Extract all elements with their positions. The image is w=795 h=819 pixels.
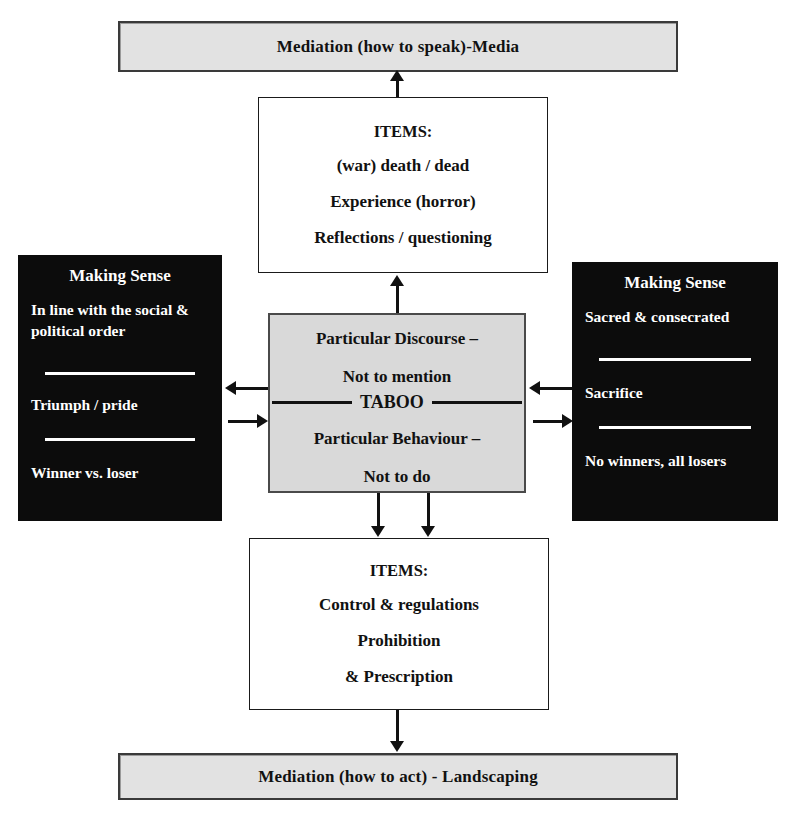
center-upper-line-1: Particular Discourse – <box>270 329 524 349</box>
bottom-items-line-2: Prohibition <box>358 631 441 651</box>
connector-center-to-bottomitems-a <box>377 493 380 528</box>
arrowhead-left-upper-right <box>529 381 540 395</box>
arrowhead-right-lower <box>562 414 573 428</box>
arrowhead-left-upper <box>225 381 236 395</box>
connector-topitems-to-topbanner <box>396 80 399 98</box>
connector-center-to-topitems <box>396 285 399 313</box>
bottom-items-line-1: Control & regulations <box>319 595 479 615</box>
arrowhead-up-topitems <box>390 275 404 286</box>
right-panel-divider-1 <box>599 358 750 361</box>
bottom-items-box: ITEMS: Control & regulations Prohibition… <box>249 538 549 710</box>
taboo-keyword: TABOO <box>352 393 432 411</box>
left-making-sense-panel: Making Sense In line with the social & p… <box>18 255 222 521</box>
left-panel-divider-1 <box>45 372 195 375</box>
connector-left-to-center-lower <box>228 420 258 423</box>
right-making-sense-panel: Making Sense Sacred & consecrated Sacrif… <box>572 262 778 521</box>
bottom-items-header: ITEMS: <box>370 561 429 581</box>
right-panel-body: Sacred & consecrated <box>585 307 765 328</box>
arrowhead-down-bottomitems-b <box>421 526 435 537</box>
connector-center-to-left-upper <box>236 387 268 390</box>
diagram-canvas: Mediation (how to speak)-Media ITEMS: (w… <box>0 0 795 819</box>
left-panel-body: In line with the social & political orde… <box>31 300 209 342</box>
left-panel-divider-2 <box>45 438 195 441</box>
left-panel-title: Making Sense <box>31 266 209 286</box>
top-items-line-1: (war) death / dead <box>337 156 470 176</box>
center-upper-line-2: Not to mention <box>270 367 524 387</box>
arrowhead-right-lower-left <box>257 414 268 428</box>
connector-bottomitems-to-bottombanner <box>396 710 399 743</box>
top-items-header: ITEMS: <box>374 122 433 142</box>
right-panel-bottom: No winners, all losers <box>585 451 765 472</box>
right-panel-divider-2 <box>599 426 750 429</box>
connector-center-to-right-lower <box>533 420 563 423</box>
left-panel-bottom: Winner vs. loser <box>31 463 209 484</box>
top-items-box: ITEMS: (war) death / dead Experience (ho… <box>258 97 548 273</box>
center-lower-line-2: Not to do <box>270 467 524 487</box>
top-mediation-banner: Mediation (how to speak)-Media <box>118 21 678 72</box>
connector-center-to-bottomitems-b <box>427 493 430 528</box>
arrowhead-down-bottomitems-a <box>371 526 385 537</box>
top-items-line-2: Experience (horror) <box>330 192 476 212</box>
bottom-items-line-3: & Prescription <box>345 667 453 687</box>
arrowhead-up-topbanner <box>390 70 404 81</box>
bottom-mediation-label: Mediation (how to act) - Landscaping <box>258 767 538 787</box>
center-lower-line-1: Particular Behaviour – <box>270 429 524 449</box>
bottom-mediation-banner: Mediation (how to act) - Landscaping <box>118 753 678 800</box>
left-panel-middle: Triumph / pride <box>31 395 209 416</box>
right-panel-middle: Sacrifice <box>585 383 765 404</box>
arrowhead-down-bottombanner <box>390 741 404 752</box>
top-mediation-label: Mediation (how to speak)-Media <box>277 37 520 57</box>
right-panel-title: Making Sense <box>585 273 765 293</box>
top-items-line-3: Reflections / questioning <box>314 228 492 248</box>
connector-right-to-center-upper <box>540 387 572 390</box>
